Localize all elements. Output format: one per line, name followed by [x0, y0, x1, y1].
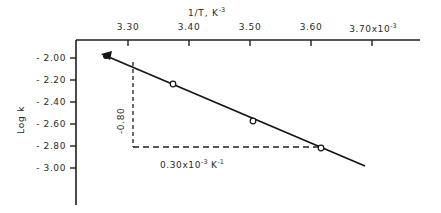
- data-point-4: [318, 145, 324, 151]
- run-annotation-unit-exponent: -1: [218, 158, 224, 166]
- x-axis-title-exponent: -3: [219, 6, 225, 14]
- x-tick-label-370-exponent: -3: [390, 22, 396, 30]
- x-tick-label-370: 3.70x10-3: [340, 22, 406, 34]
- rise-annotation: -0.80: [116, 108, 126, 134]
- best-fit-line: [101, 51, 365, 166]
- data-point-2: [170, 81, 176, 87]
- y-tick-label-240: - 2.40: [22, 97, 66, 107]
- x-tick-label-350: 3.50: [230, 22, 270, 32]
- data-point-1: [103, 53, 108, 58]
- arrhenius-plot-figure: 1/T, K-3 3.30 3.40 3.50 3.60 3.70x10-3 L…: [0, 0, 441, 213]
- run-annotation-exponent: -3: [201, 158, 207, 166]
- x-axis-title-text: 1/T, K: [188, 8, 219, 18]
- y-tick-label-220: - 2.20: [22, 75, 66, 85]
- x-axis-title: 1/T, K-3: [188, 6, 225, 18]
- run-annotation: 0.30x10-3 K-1: [160, 158, 224, 170]
- y-tick-label-280: - 2.80: [22, 141, 66, 151]
- y-tick-label-260: - 2.60: [22, 119, 66, 129]
- y-axis-ticks: [70, 58, 76, 168]
- y-tick-label-300: - 3.00: [22, 163, 66, 173]
- x-tick-label-360: 3.60: [291, 22, 331, 32]
- x-tick-label-370-text: 3.70x10: [349, 24, 390, 34]
- x-tick-label-330: 3.30: [108, 22, 148, 32]
- x-axis-ticks: [128, 40, 372, 46]
- x-tick-label-340: 3.40: [169, 22, 209, 32]
- run-annotation-value: 0.30x10: [160, 160, 201, 170]
- data-point-3: [250, 118, 256, 124]
- y-tick-label-200: - 2.00: [22, 53, 66, 63]
